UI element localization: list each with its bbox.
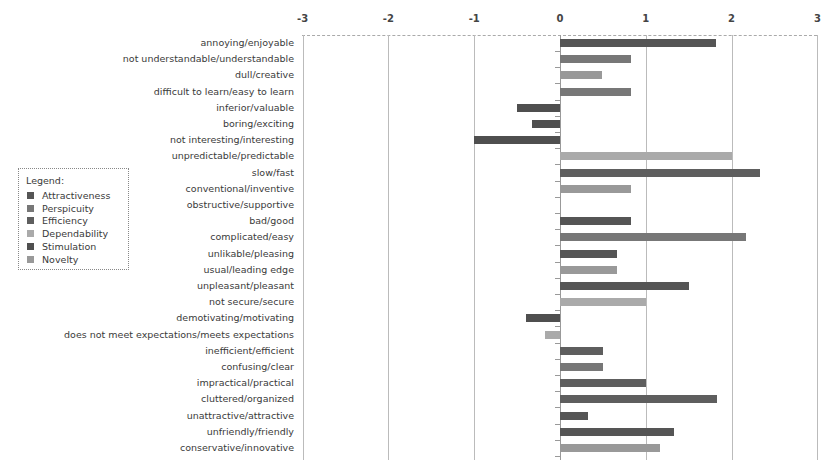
item-bar: [474, 136, 560, 144]
legend-item-label: Attractiveness: [42, 190, 110, 201]
item-bar: [560, 379, 646, 387]
legend-item-efficiency: Efficiency: [27, 215, 88, 227]
row-tick: [555, 310, 560, 311]
legend-swatch-icon: [27, 230, 34, 237]
item-label: difficult to learn/easy to learn: [154, 86, 294, 98]
item-label: dull/creative: [235, 69, 294, 81]
item-bar: [560, 428, 674, 436]
legend-item-perspicuity: Perspicuity: [27, 203, 94, 215]
x-tick-label: -1: [469, 13, 480, 24]
x-tick-label: 1: [642, 13, 649, 24]
grid-line: [817, 35, 818, 460]
x-tick-label: 0: [557, 13, 564, 24]
x-tick-label: 2: [728, 13, 735, 24]
row-tick: [555, 456, 560, 457]
legend-swatch-icon: [27, 192, 34, 199]
item-bar: [560, 88, 631, 96]
item-label: bad/good: [249, 215, 294, 227]
legend-item-dependability: Dependability: [27, 228, 108, 240]
item-label: impractical/practical: [197, 377, 294, 389]
item-label: inferior/valuable: [216, 102, 294, 114]
row-tick: [555, 67, 560, 68]
row-tick: [555, 278, 560, 279]
item-bar: [560, 347, 603, 355]
item-label: inefficient/efficient: [205, 345, 294, 357]
item-label: cluttered/organized: [201, 393, 294, 405]
item-label: unfriendly/friendly: [207, 426, 294, 438]
grid-line: [474, 35, 475, 460]
grid-line: [303, 35, 304, 460]
legend-swatch-icon: [27, 243, 34, 250]
item-bar: [560, 55, 631, 63]
row-tick: [555, 213, 560, 214]
legend-item-label: Stimulation: [42, 241, 96, 252]
item-label: usual/leading edge: [204, 264, 294, 276]
row-tick: [555, 132, 560, 133]
row-tick: [555, 197, 560, 198]
item-bar: [560, 217, 631, 225]
row-tick: [555, 100, 560, 101]
item-bar: [545, 331, 560, 339]
item-bar: [517, 104, 560, 112]
row-tick: [555, 83, 560, 84]
row-tick: [555, 440, 560, 441]
item-bar: [560, 152, 732, 160]
legend-item-label: Efficiency: [42, 215, 88, 226]
row-tick: [555, 391, 560, 392]
item-bar: [560, 39, 716, 47]
item-label: unattractive/attractive: [187, 410, 294, 422]
item-label: conservative/innovative: [180, 442, 294, 454]
row-tick: [555, 116, 560, 117]
item-label: demotivating/motivating: [176, 312, 294, 324]
row-tick: [555, 294, 560, 295]
item-bar: [560, 412, 588, 420]
row-tick: [555, 375, 560, 376]
legend-title: Legend:: [26, 175, 64, 186]
item-label: unlikable/pleasing: [208, 248, 294, 260]
legend-swatch-icon: [27, 205, 34, 212]
legend: Legend: AttractivenessPerspicuityEfficie…: [18, 168, 129, 270]
item-label: not understandable/understandable: [123, 53, 294, 65]
item-label: complicated/easy: [210, 231, 294, 243]
item-bar: [560, 169, 760, 177]
item-label: obstructive/supportive: [187, 199, 294, 211]
legend-item-label: Perspicuity: [42, 203, 94, 214]
item-bar: [560, 266, 617, 274]
legend-swatch-icon: [27, 217, 34, 224]
legend-item-stimulation: Stimulation: [27, 241, 96, 253]
item-label: does not meet expectations/meets expecta…: [64, 329, 294, 341]
row-tick: [555, 262, 560, 263]
item-label: boring/exciting: [223, 118, 294, 130]
item-bar: [560, 250, 617, 258]
x-tick-label: -3: [297, 13, 308, 24]
item-bar: [560, 233, 746, 241]
row-tick: [555, 326, 560, 327]
row-tick: [555, 148, 560, 149]
item-bar: [560, 298, 646, 306]
item-label: unpleasant/pleasant: [197, 280, 294, 292]
item-bar: [560, 395, 717, 403]
item-bar: [532, 120, 560, 128]
legend-item-novelty: Novelty: [27, 254, 78, 266]
row-tick: [555, 164, 560, 165]
item-bar: [560, 363, 603, 371]
item-label: slow/fast: [252, 167, 294, 179]
grid-line: [388, 35, 389, 460]
row-tick: [555, 229, 560, 230]
item-label: annoying/enjoyable: [201, 37, 294, 49]
row-tick: [555, 424, 560, 425]
x-tick-label: 3: [814, 13, 821, 24]
row-tick: [555, 245, 560, 246]
item-bar: [560, 444, 660, 452]
item-bar: [560, 185, 631, 193]
item-bar: [560, 71, 602, 79]
row-tick: [555, 359, 560, 360]
ueq-item-means-chart: -3-2-10123 annoying/enjoyablenot underst…: [0, 0, 839, 474]
row-tick: [555, 343, 560, 344]
row-tick: [555, 181, 560, 182]
item-label: confusing/clear: [221, 361, 294, 373]
legend-item-label: Novelty: [42, 254, 78, 265]
row-tick: [555, 407, 560, 408]
legend-item-label: Dependability: [42, 228, 108, 239]
grid-line: [732, 35, 733, 460]
